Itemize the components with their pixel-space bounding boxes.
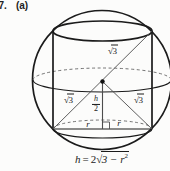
problem-number: 57. (0, 0, 7, 11)
radius-label-right: r (117, 119, 121, 128)
problem-label: 57.(a) (0, 0, 28, 11)
center-dot (100, 79, 104, 83)
half-height-label: h 2 (92, 94, 100, 114)
formula-radicand: 3 − r2 (101, 151, 129, 165)
radicand: 3 (111, 45, 118, 56)
formula-equals: = (83, 153, 89, 165)
formula-lhs: h (75, 153, 81, 165)
fraction-numerator: h (92, 95, 100, 104)
fraction-denominator: 2 (92, 104, 100, 114)
fraction: h 2 (92, 95, 100, 114)
problem-part: (a) (16, 0, 28, 11)
formula-radicand-base: 3 − r (102, 153, 125, 165)
sqrt3-label-top: √3 (108, 45, 118, 56)
height-formula: h=2√3 − r2 (75, 151, 129, 165)
radicand: 3 (137, 94, 144, 105)
diagram-canvas (0, 0, 170, 171)
radicand: 3 (67, 94, 74, 105)
figure-cylinder-in-sphere: 57.(a) √3 √3 √3 h 2 r r h=2√3 − r2 (0, 0, 170, 171)
cylinder-bottom-front-arc (53, 129, 152, 138)
cylinder-top-ellipse (53, 21, 152, 41)
radius-label-left: r (86, 120, 90, 129)
formula-exponent: 2 (124, 152, 128, 160)
right-angle-marker (103, 122, 110, 129)
sqrt3-label-right: √3 (134, 94, 144, 105)
sqrt3-label-left: √3 (64, 94, 74, 105)
